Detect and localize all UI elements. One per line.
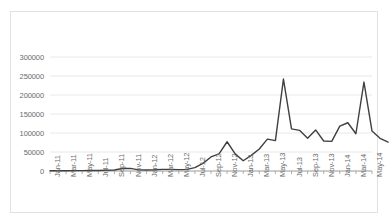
gridlines-group — [50, 57, 372, 152]
x-axis-tick-label: Nov-11 — [134, 154, 143, 177]
x-axis-tick-label: Mar-11 — [69, 154, 78, 177]
x-axis-tick-label: Mar-13 — [262, 154, 271, 177]
x-axis-tick-label: Jul-13 — [295, 157, 304, 177]
y-axis-tick-label: 250000 — [0, 72, 44, 81]
x-axis-tick-label: May-14 — [375, 153, 384, 177]
y-axis-tick-label: 150000 — [0, 110, 44, 119]
y-axis-tick-label: 50000 — [0, 148, 44, 157]
x-axis-tick-label: Nov-13 — [327, 153, 336, 177]
x-axis-tick-label: Jan-14 — [343, 155, 352, 177]
chart-plot-area — [0, 0, 391, 224]
x-axis-tick-label: Sep-13 — [311, 153, 320, 177]
x-axis-tick-label: May-12 — [182, 153, 191, 177]
y-axis-tick-label: 200000 — [0, 91, 44, 100]
x-axis-tick-label: Jan-13 — [246, 155, 255, 177]
x-axis-tick-label: Jan-11 — [53, 155, 62, 177]
x-axis-tick-label: May-13 — [278, 153, 287, 177]
chart-container: 050000100000150000200000250000300000 Jan… — [0, 0, 391, 224]
x-axis-tick-label: Sep-11 — [117, 154, 126, 177]
y-axis-tick-label: 100000 — [0, 129, 44, 138]
x-axis-tick-label: Jan-12 — [150, 155, 159, 177]
x-axis-tick-label: Mar-12 — [166, 154, 175, 177]
y-axis-tick-label: 0 — [0, 167, 44, 176]
x-axis-tick-label: Nov-12 — [230, 153, 239, 177]
x-axis-tick-label: Sep-12 — [214, 153, 223, 177]
x-axis-tick-label: May-11 — [85, 153, 94, 177]
y-axis-tick-label: 300000 — [0, 53, 44, 62]
x-axis-tick-label: Jul-11 — [101, 158, 110, 177]
x-axis-tick-label: Jul-12 — [198, 157, 207, 177]
x-axis-tick-label: Mar-14 — [359, 154, 368, 177]
